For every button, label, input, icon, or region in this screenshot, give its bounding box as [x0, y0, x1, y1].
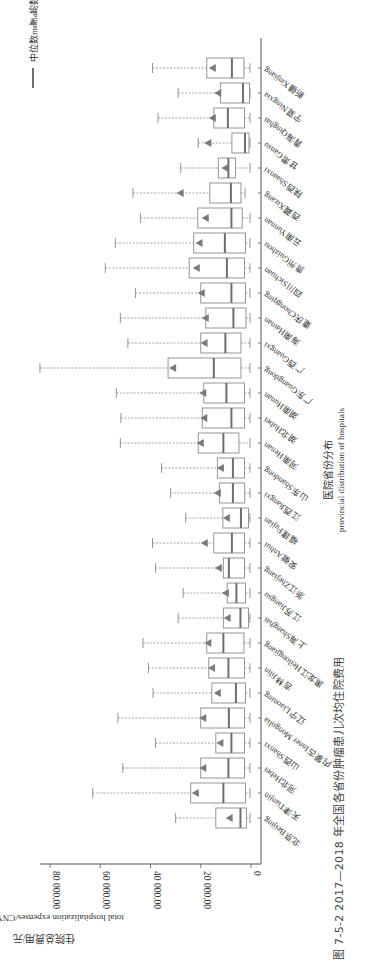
box-9 — [183, 583, 250, 603]
box-12 — [186, 508, 250, 528]
box-3 — [156, 733, 250, 753]
iqr-box — [168, 358, 241, 378]
box-27 — [198, 133, 250, 153]
iqr-box — [207, 633, 244, 653]
iqr-box — [191, 783, 246, 803]
iqr-box — [201, 708, 245, 728]
box-29 — [178, 83, 250, 103]
value-axis-title — [40, 880, 80, 960]
iqr-box — [206, 308, 246, 328]
box-19 — [128, 333, 250, 353]
category-labels: 北京Beijing天津Tianjin河北Hebei山西Shanxi内蒙古Inne… — [261, 65, 333, 848]
caption-text: 图 7-5-2 2017—2018 年全国各省份肿瘤患儿次均住院费用 — [333, 656, 346, 960]
value-tick-label: 60 000.00 — [101, 871, 111, 909]
mean-marker — [214, 89, 221, 97]
mean-marker — [209, 114, 216, 122]
legend-mean-label: 均数mean — [28, 0, 39, 14]
mean-marker — [201, 539, 208, 547]
iqr-box — [204, 383, 245, 403]
plot-area — [40, 58, 250, 828]
iqr-box — [198, 433, 239, 453]
mean-marker — [214, 489, 221, 497]
mean-marker — [202, 314, 209, 322]
box-30 — [153, 58, 250, 78]
mean-marker — [222, 589, 229, 597]
value-tick-label: 40 000.00 — [152, 871, 162, 909]
iqr-box — [201, 758, 245, 778]
box-21 — [135, 283, 250, 303]
figure-caption: 图 7-5-2 2017—2018 年全国各省份肿瘤患儿次均住院费用 — [330, 656, 346, 960]
iqr-box — [214, 533, 245, 553]
iqr-box — [201, 283, 246, 303]
box-11 — [153, 533, 250, 553]
boxplot-chart: 020 000.0040 000.0060 000.0080 000.00住院总… — [0, 0, 366, 969]
box-24 — [140, 208, 250, 228]
box-6 — [148, 658, 250, 678]
figure-page: 020 000.0040 000.0060 000.0080 000.00住院总… — [0, 0, 366, 969]
category-axis-title-cn: 医院省份分布 — [322, 440, 334, 500]
iqr-box — [214, 108, 245, 128]
category-label: 黑龙江Heilongjiang — [261, 640, 326, 690]
legend: 中位数median均数mean — [28, 0, 39, 88]
box-16 — [121, 408, 250, 428]
mean-marker — [204, 139, 211, 147]
box-5 — [153, 683, 250, 703]
box-25 — [133, 183, 245, 203]
box-4 — [118, 708, 250, 728]
box-18 — [40, 358, 250, 378]
iqr-box — [232, 133, 249, 153]
value-tick-label: 20 000.00 — [202, 871, 212, 909]
box-10 — [156, 558, 250, 578]
mean-marker — [177, 189, 184, 197]
box-23 — [115, 233, 250, 253]
box-14 — [162, 458, 250, 478]
box-20 — [120, 308, 250, 328]
value-tick-label: 0 — [252, 871, 262, 876]
mean-marker — [215, 564, 222, 572]
box-0 — [176, 808, 250, 828]
category-axis-title-en: provincial distribution of hospitals — [336, 407, 346, 532]
box-1 — [93, 783, 250, 803]
category-label: 吉林Jilin — [261, 665, 294, 692]
legend-median-label: 中位数median — [28, 8, 39, 62]
box-2 — [123, 758, 250, 778]
iqr-box — [202, 408, 244, 428]
box-28 — [158, 108, 250, 128]
box-13 — [171, 483, 250, 503]
box-26 — [181, 158, 250, 178]
iqr-box — [223, 558, 244, 578]
mean-marker — [199, 389, 206, 397]
box-8 — [178, 608, 250, 628]
iqr-box — [210, 183, 241, 203]
box-22 — [105, 258, 250, 278]
box-17 — [116, 383, 250, 403]
box-15 — [120, 433, 250, 453]
box-7 — [143, 633, 250, 653]
iqr-box — [220, 83, 249, 103]
